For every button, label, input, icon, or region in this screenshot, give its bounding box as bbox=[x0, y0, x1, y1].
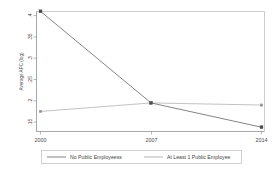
chart-figure: .4 .35 .3 .25 .2 .15 Average APC (log) 2… bbox=[0, 0, 277, 172]
y-tick-label: .2 bbox=[27, 99, 33, 103]
x-tick-label: 2007 bbox=[146, 137, 158, 143]
line-chart-svg: .4 .35 .3 .25 .2 .15 Average APC (log) 2… bbox=[0, 0, 277, 172]
y-tick-label: .3 bbox=[27, 56, 33, 60]
data-point-marker bbox=[260, 126, 263, 129]
data-point-marker bbox=[39, 110, 41, 112]
y-tick-label: .15 bbox=[27, 118, 33, 125]
data-point-marker bbox=[150, 101, 153, 104]
x-tick-label: 2014 bbox=[256, 137, 268, 143]
y-tick-label: .35 bbox=[27, 33, 33, 40]
data-point-marker bbox=[39, 10, 42, 13]
y-axis-title: Average APC (log) bbox=[19, 52, 24, 90]
y-tick-label: .4 bbox=[27, 13, 33, 17]
legend-label: No Public Employeess bbox=[70, 154, 122, 160]
data-point-marker bbox=[260, 104, 262, 106]
chart-legend: No Public Employeess At Least 1 Public E… bbox=[42, 151, 242, 164]
x-tick-label: 2000 bbox=[35, 137, 47, 143]
y-tick-label: .25 bbox=[27, 76, 33, 83]
legend-label: At Least 1 Public Employee bbox=[167, 154, 231, 160]
chart-background bbox=[0, 0, 277, 172]
